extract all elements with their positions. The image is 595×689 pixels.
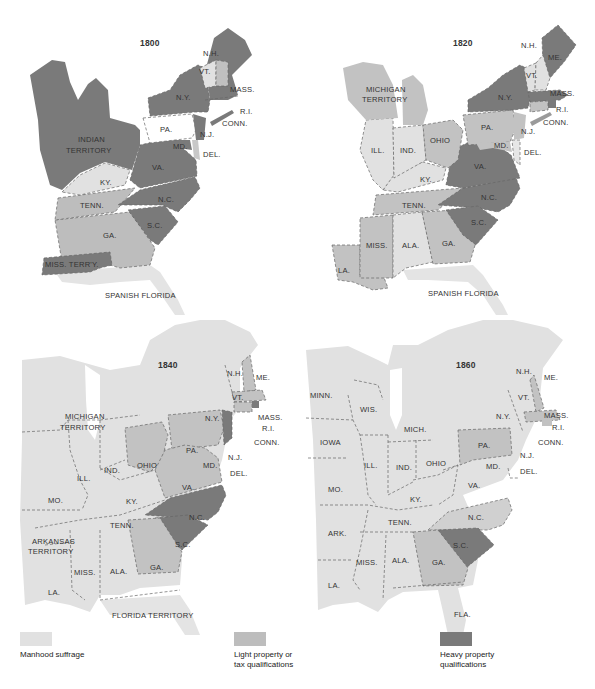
- label-vt: VT.: [526, 71, 538, 80]
- label-ri: R.I.: [262, 424, 275, 433]
- label-va: VA.: [474, 162, 486, 171]
- label-ri: R.I.: [552, 423, 565, 432]
- label-md: MD.: [486, 462, 501, 471]
- label-ind: IND.: [396, 463, 412, 472]
- label-sc: S.C.: [147, 221, 163, 230]
- label-vt: VT.: [199, 67, 211, 76]
- map-panel-1820: 1820 N.H. ME. VT. MASS. R.I. CONN. N.Y. …: [298, 0, 595, 315]
- label-me: ME.: [256, 373, 270, 382]
- label-la: LA.: [328, 581, 340, 590]
- label-miss-terr: MISS. TERR'Y.: [45, 260, 99, 269]
- label-pa: PA.: [160, 125, 172, 134]
- label-sc: S.C.: [175, 540, 191, 549]
- region-conn: [530, 101, 548, 112]
- label-ark: ARK.: [328, 529, 347, 538]
- year-1800: 1800: [140, 38, 160, 48]
- label-nc: N.C.: [481, 193, 497, 202]
- legend-label: Light property or tax qualifications: [234, 650, 293, 670]
- label-ky: KY.: [420, 175, 432, 184]
- label-nj: N.J.: [520, 451, 534, 460]
- label-ala: ALA.: [392, 556, 409, 565]
- label-florida-territory: FLORIDA TERRITORY: [112, 611, 193, 620]
- label-pa: PA.: [186, 446, 198, 455]
- label-fla: FLA.: [454, 610, 471, 619]
- label-ky: KY.: [100, 178, 112, 187]
- label-del: DEL.: [524, 148, 542, 157]
- label-tenn: TENN.: [80, 201, 104, 210]
- legend-swatch-medium: [234, 632, 266, 646]
- label-spanish-florida: SPANISH FLORIDA: [428, 289, 500, 298]
- label-iowa: IOWA: [320, 438, 342, 447]
- label-del: DEL.: [230, 469, 248, 478]
- label-arkansas-territory-1: ARKANSAS: [32, 537, 75, 546]
- legend-manhood-suffrage: Manhood suffrage: [20, 632, 84, 660]
- label-ri: R.I.: [240, 107, 253, 116]
- year-1860: 1860: [456, 360, 476, 370]
- map-panel-1800: 1800 N.H. VT. MASS. R.I. CONN. N.Y. PA. …: [0, 0, 297, 315]
- map-panel-1840: 1840 N.H. ME. VT. MASS. R.I. CONN. N.Y. …: [0, 320, 297, 635]
- label-miss: MISS.: [74, 568, 96, 577]
- label-spanish-florida: SPANISH FLORIDA: [105, 291, 177, 300]
- label-mo: MO.: [48, 496, 63, 505]
- label-mo: MO.: [328, 485, 343, 494]
- legend-light-property: Light property or tax qualifications: [234, 632, 293, 670]
- label-nj: N.J.: [200, 130, 214, 139]
- year-1820: 1820: [453, 38, 473, 48]
- label-ala: ALA.: [402, 241, 419, 250]
- region-nh: [242, 355, 256, 392]
- label-ind: IND.: [104, 466, 120, 475]
- label-minn: MINN.: [310, 391, 333, 400]
- map-1840: 1840 N.H. ME. VT. MASS. R.I. CONN. N.Y. …: [0, 320, 297, 635]
- label-michigan-territory-2: TERRITORY: [362, 95, 407, 104]
- map-1800: 1800 N.H. VT. MASS. R.I. CONN. N.Y. PA. …: [0, 0, 297, 315]
- label-indian-territory-2: TERRITORY: [66, 146, 111, 155]
- map-1860: 1860 N.H. ME. VT. MASS. R.I. CONN. N.Y. …: [298, 320, 595, 635]
- label-md: MD.: [173, 142, 188, 151]
- label-nc: N.C.: [158, 195, 174, 204]
- label-mass: MASS.: [550, 89, 575, 98]
- label-ny: N.Y.: [498, 93, 513, 102]
- label-mich: MICH.: [404, 425, 427, 434]
- label-nj: N.J.: [521, 127, 535, 136]
- label-va: VA.: [468, 481, 480, 490]
- label-tenn: TENN.: [402, 201, 426, 210]
- label-conn: CONN.: [538, 438, 563, 447]
- label-ohio: OHIO: [137, 461, 157, 470]
- legend-label-line-1: Light property or: [234, 650, 293, 660]
- label-tenn: TENN.: [388, 518, 412, 527]
- label-michigan-territory-1: MICHIGAN: [366, 85, 406, 94]
- legend-label: Heavy property qualifications: [440, 650, 494, 670]
- label-mass: MASS.: [258, 413, 283, 422]
- legend-label-line-1: Heavy property: [440, 650, 494, 660]
- label-va: VA.: [182, 483, 194, 492]
- region-conn: [234, 402, 252, 412]
- region-nj: [222, 410, 232, 445]
- label-michigan-territory-1: MICHIGAN: [65, 412, 105, 421]
- region-ny: [468, 65, 530, 112]
- label-nh: N.H.: [521, 41, 537, 50]
- label-sc: S.C.: [453, 541, 469, 550]
- label-tenn: TENN.: [110, 521, 134, 530]
- label-ny: N.Y.: [496, 412, 511, 421]
- label-me: ME.: [548, 53, 562, 62]
- region-nh: [216, 60, 228, 86]
- label-ill: ILL.: [364, 461, 377, 470]
- label-ga: GA.: [150, 563, 164, 572]
- label-nc: N.C.: [189, 513, 205, 522]
- label-ri: R.I.: [556, 105, 569, 114]
- label-sc: S.C.: [471, 218, 487, 227]
- label-ky: KY.: [410, 495, 422, 504]
- region-ri: [252, 401, 259, 408]
- label-miss: MISS.: [356, 558, 378, 567]
- label-miss: MISS.: [366, 241, 388, 250]
- label-arkansas-territory-2: TERRITORY: [28, 547, 73, 556]
- label-ala: ALA.: [110, 567, 127, 576]
- label-indian-territory-1: INDIAN: [78, 135, 105, 144]
- map-1820: 1820 N.H. ME. VT. MASS. R.I. CONN. N.Y. …: [298, 0, 595, 315]
- label-md: MD.: [203, 461, 218, 470]
- label-vt: VT.: [232, 393, 244, 402]
- label-conn: CONN.: [222, 119, 247, 128]
- label-del: DEL.: [203, 150, 221, 159]
- label-nh: N.H.: [227, 369, 243, 378]
- label-la: LA.: [338, 266, 350, 275]
